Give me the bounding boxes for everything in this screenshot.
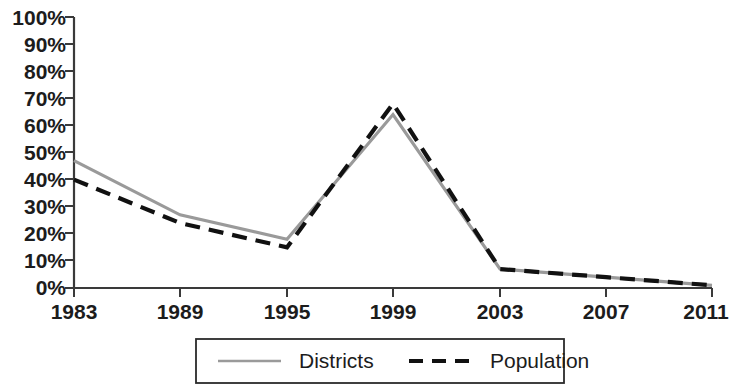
x-tick-label: 2003: [477, 300, 524, 323]
plot-series-group: [74, 104, 712, 286]
x-tick-label: 2007: [583, 300, 630, 323]
x-axis-tick-labels: 1983 1989 1995 1999 2003 2007 2011: [51, 300, 729, 323]
legend-label: Population: [490, 349, 589, 372]
x-tick-label: 1995: [264, 300, 311, 323]
x-tick-label: 1983: [51, 300, 98, 323]
y-tick-label: 20%: [24, 222, 66, 245]
y-tick-label: 60%: [24, 114, 66, 137]
y-axis-tick-labels: 100% 90% 80% 70% 60% 50% 40% 30% 20% 10%…: [12, 6, 66, 299]
legend: Districts Population: [196, 339, 589, 383]
legend-label: Districts: [299, 349, 374, 372]
y-tick-label: 50%: [24, 141, 66, 164]
y-tick-label: 70%: [24, 87, 66, 110]
series-line-population: [74, 104, 712, 286]
x-tick-label: 1989: [157, 300, 204, 323]
y-tick-label: 100%: [12, 6, 66, 29]
series-line-districts: [74, 115, 712, 286]
y-tick-label: 80%: [24, 60, 66, 83]
x-tick-label: 2011: [683, 300, 729, 323]
y-tick-label: 10%: [24, 249, 66, 272]
y-tick-label: 30%: [24, 195, 66, 218]
y-tick-label: 90%: [24, 33, 66, 56]
y-tick-label: 40%: [24, 168, 66, 191]
line-chart: 100% 90% 80% 70% 60% 50% 40% 30% 20% 10%…: [0, 0, 741, 386]
x-tick-label: 1999: [370, 300, 417, 323]
y-axis: [65, 17, 74, 288]
y-tick-label: 0%: [36, 276, 67, 299]
chart-canvas: 100% 90% 80% 70% 60% 50% 40% 30% 20% 10%…: [0, 0, 741, 386]
x-axis: [74, 288, 712, 297]
